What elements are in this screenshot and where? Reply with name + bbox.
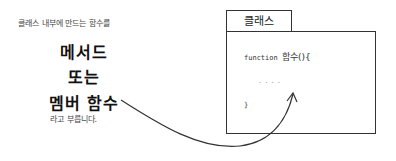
curved-arrow-icon	[0, 0, 396, 161]
